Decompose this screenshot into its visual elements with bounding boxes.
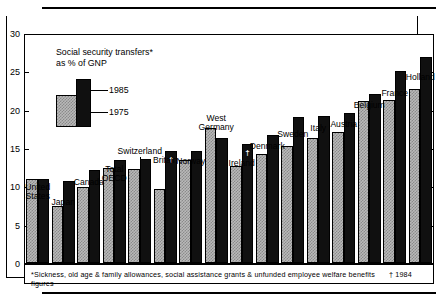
- category-label: West Germany: [186, 114, 246, 133]
- legend-label-1975: 1975: [109, 108, 129, 117]
- category-label: Austria: [314, 120, 374, 129]
- y-axis-tick-label: 0: [2, 260, 20, 269]
- category-label: Belgium: [339, 101, 399, 110]
- chart-figure: 051015202530 †† United StatesJapanCanada…: [0, 0, 446, 300]
- label-leader-line: [267, 152, 268, 161]
- label-leader-line: [420, 83, 421, 92]
- y-axis-tick-label: 25: [2, 68, 20, 77]
- legend-leader-1985: [91, 90, 108, 91]
- footnote-box: *Sickness, old age & family allowances, …: [24, 264, 434, 284]
- category-labels-layer: United StatesJapanCanadaTotal OECDSwitze…: [25, 35, 433, 263]
- legend: Social security transfers* as % of GNP 1…: [56, 47, 206, 68]
- legend-title: Social security transfers* as % of GNP: [56, 47, 206, 68]
- y-axis-tick-label: 5: [2, 222, 20, 231]
- footnote-text: *Sickness, old age & family allowances, …: [31, 270, 375, 279]
- legend-leader-1975: [91, 112, 108, 113]
- y-axis-tick-label: 20: [2, 107, 20, 116]
- category-label: Holland: [390, 73, 446, 82]
- footnote: *Sickness, old age & family allowances, …: [31, 270, 433, 288]
- bottom-rule: [42, 292, 436, 294]
- category-label: Total OECD: [84, 165, 144, 184]
- legend-swatches: 1985 1975: [56, 79, 102, 127]
- legend-label-1985: 1985: [109, 86, 129, 95]
- y-axis-tick-label: 15: [2, 145, 20, 154]
- category-label: France: [365, 89, 425, 98]
- top-rule: [42, 7, 436, 9]
- label-leader-line: [242, 169, 243, 178]
- category-label: Ireland: [212, 159, 272, 168]
- legend-swatch-1975: [56, 95, 78, 127]
- legend-swatch-1985: [76, 79, 91, 127]
- label-leader-line: [191, 167, 192, 175]
- label-leader-line: [165, 166, 166, 176]
- category-label: Denmark: [237, 142, 297, 151]
- y-axis-tick-label: 30: [2, 30, 20, 39]
- category-label: Japan: [33, 198, 93, 207]
- label-leader-line: [293, 140, 294, 149]
